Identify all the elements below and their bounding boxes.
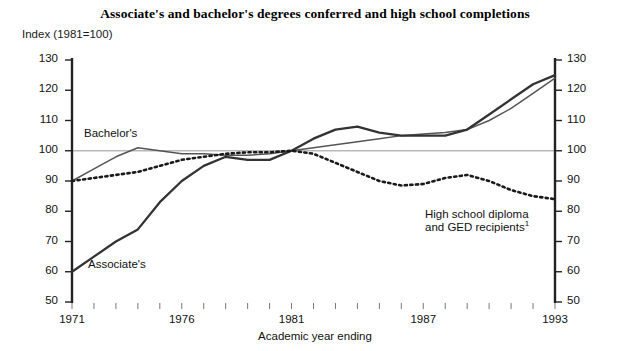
x-axis-title: Academic year ending	[0, 330, 630, 342]
y-tick-label-left-70: 70	[24, 234, 58, 246]
annotation-highschool-line2: and GED recipients	[425, 221, 525, 233]
annotation-associates: Associate's	[88, 258, 146, 271]
series-line-associates	[72, 75, 555, 272]
series-line-bachelors	[72, 78, 555, 181]
y-tick-label-right-50: 50	[567, 294, 601, 306]
y-tick-label-right-110: 110	[567, 113, 601, 125]
y-tick-label-right-90: 90	[567, 173, 601, 185]
y-tick-label-left-100: 100	[24, 143, 58, 155]
x-tick-label-1987: 1987	[398, 313, 448, 325]
x-ticks-minor	[72, 303, 555, 309]
y-tick-label-right-100: 100	[567, 143, 601, 155]
chart-figure: Associate's and bachelor's degrees confe…	[0, 0, 630, 351]
y-tick-label-left-80: 80	[24, 203, 58, 215]
y-tick-label-right-80: 80	[567, 203, 601, 215]
annotation-bachelors: Bachelor's	[84, 127, 137, 140]
x-tick-label-1981: 1981	[267, 313, 317, 325]
x-tick-label-1993: 1993	[530, 313, 580, 325]
y-tick-label-right-60: 60	[567, 264, 601, 276]
annotation-highschool-line1: High school diploma	[425, 208, 529, 220]
y-tick-label-left-50: 50	[24, 294, 58, 306]
y-tick-label-left-110: 110	[24, 113, 58, 125]
x-tick-label-1976: 1976	[157, 313, 207, 325]
y-tick-label-left-130: 130	[24, 52, 58, 64]
plot-area	[0, 0, 630, 351]
y-tick-label-left-60: 60	[24, 264, 58, 276]
y-tick-label-right-120: 120	[567, 82, 601, 94]
y-tick-label-left-120: 120	[24, 82, 58, 94]
y-tick-label-left-90: 90	[24, 173, 58, 185]
y-tick-label-right-130: 130	[567, 52, 601, 64]
series-line-highschool	[72, 151, 555, 199]
annotation-highschool-footnote: 1	[525, 219, 529, 228]
y-tick-label-right-70: 70	[567, 234, 601, 246]
annotation-highschool: High school diploma and GED recipients1	[425, 208, 529, 234]
x-tick-label-1971: 1971	[47, 313, 97, 325]
